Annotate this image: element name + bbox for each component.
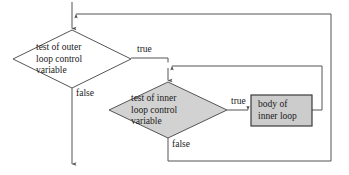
edge-label-outer-true: true (137, 44, 152, 55)
outer-decision-diamond (13, 30, 131, 88)
inner-body-box (251, 95, 312, 126)
edge-inner-false (168, 138, 331, 161)
edge-label-inner-false: false (172, 139, 190, 150)
flowchart-figure: test of outer loop control variable test… (0, 0, 349, 175)
edge-label-inner-true: true (231, 96, 246, 107)
edge-outer-true (131, 58, 168, 63)
edge-inner-loopback-riser (312, 66, 322, 110)
inner-decision-diamond (109, 82, 227, 138)
edge-label-outer-false: false (76, 88, 94, 99)
